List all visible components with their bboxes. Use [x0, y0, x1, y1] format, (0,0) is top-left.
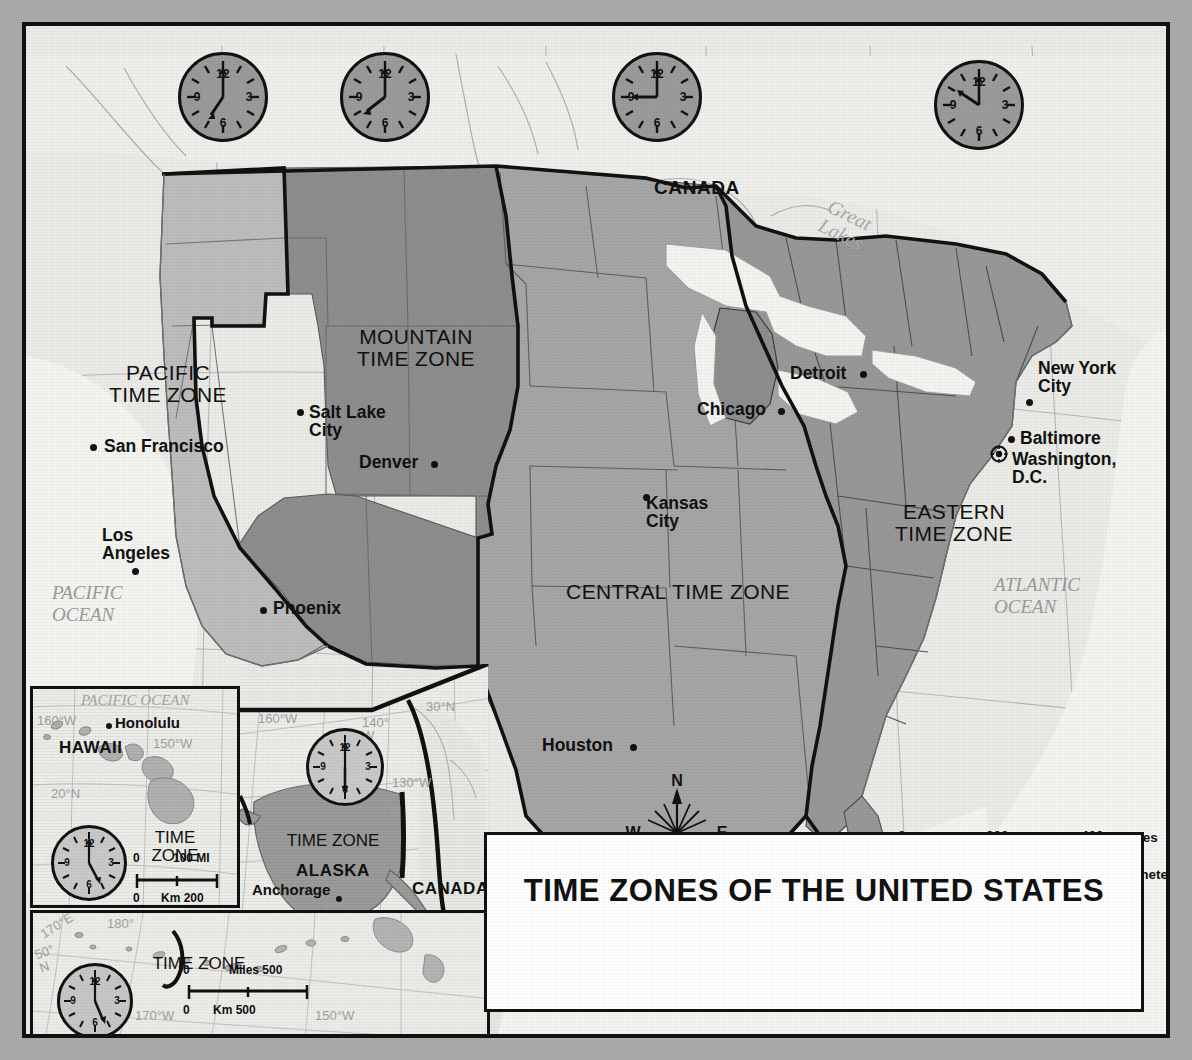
map-title-box: TIME ZONES OF THE UNITED STATES	[484, 832, 1144, 1012]
svg-text:6: 6	[654, 116, 661, 130]
city-label-kansas-city: Kansas City	[646, 494, 708, 531]
hawaii-scale-km-max: Km 200	[161, 891, 204, 905]
hawaii-lat-20n: 20°N	[51, 787, 80, 801]
svg-text:9: 9	[320, 761, 326, 772]
svg-text:9: 9	[70, 995, 76, 1006]
alaska-inset[interactable]: 160°W 140° W 130°W 70°N 60°N 30°N TIME Z…	[240, 664, 490, 914]
ocean-label-pacific: PACIFIC OCEAN	[52, 582, 122, 626]
zone-label-pacific: PACIFIC TIME ZONE	[88, 362, 248, 406]
city-dot-washington-dc	[989, 444, 1009, 468]
city-label-new-york-city: New York City	[1038, 359, 1116, 396]
alaska-lon-160w: 160°W	[258, 712, 297, 726]
city-label-honolulu: Honolulu	[115, 715, 180, 731]
city-label-anchorage: Anchorage	[252, 882, 330, 898]
svg-text:6: 6	[220, 116, 227, 130]
svg-text:6: 6	[92, 1017, 98, 1028]
svg-text:3: 3	[114, 995, 120, 1006]
zone-label-eastern: EASTERN TIME ZONE	[874, 501, 1034, 545]
svg-text:9: 9	[950, 98, 957, 112]
hawaii-scale-km-0: 0	[133, 891, 140, 905]
eastern-clock: 123 69	[934, 60, 1024, 150]
hawaii-scale-miles-0: 0	[133, 851, 140, 865]
city-label-phoenix: Phoenix	[273, 599, 341, 617]
alaska-name-label: ALASKA	[296, 862, 370, 880]
hawaii-lon-150w: 150°W	[153, 737, 192, 751]
hawaii-lon-160w: 160°W	[37, 714, 76, 728]
hawaii-clock: 123 69	[51, 825, 127, 901]
city-dot-new-york-city	[1026, 399, 1033, 406]
svg-text:3: 3	[408, 90, 415, 104]
city-dot-los-angeles	[132, 568, 139, 575]
hawaii-scale-miles-max: 100 MI	[173, 851, 210, 865]
zone-label-central: CENTRAL TIME ZONE	[538, 581, 818, 603]
city-dot-chicago	[778, 408, 785, 415]
country-label-canada-inset: CANADA	[412, 880, 489, 898]
svg-text:N: N	[671, 774, 683, 789]
mountain-clock: 123 69	[340, 52, 430, 142]
aleutian-scale-miles: Miles 500	[229, 963, 282, 977]
city-dot-phoenix	[260, 607, 267, 614]
aleutian-lon-180: 180°	[107, 917, 134, 931]
city-dot-anchorage	[336, 896, 342, 902]
city-dot-denver	[431, 461, 438, 468]
city-label-houston: Houston	[542, 736, 613, 754]
aleutian-clock: 123 69	[57, 963, 133, 1038]
ocean-label-atlantic: ATLANTIC OCEAN	[994, 574, 1080, 618]
svg-text:3: 3	[365, 761, 371, 772]
hawaii-inset[interactable]: PACIFIC OCEAN 160°W 150°W 20°N Honolulu …	[30, 686, 240, 908]
city-dot-salt-lake-city	[297, 409, 304, 416]
map-page: 123 69 123	[0, 0, 1192, 1060]
svg-text:3: 3	[108, 857, 114, 868]
city-label-washington-dc: Washington, D.C.	[1012, 450, 1116, 487]
alaska-clock: 123 69	[306, 728, 384, 806]
map-title: TIME ZONES OF THE UNITED STATES	[524, 873, 1105, 909]
aleutian-scale-miles-0: 0	[183, 963, 190, 977]
svg-text:9: 9	[356, 90, 363, 104]
city-dot-detroit	[860, 371, 867, 378]
svg-text:6: 6	[976, 124, 983, 138]
svg-text:3: 3	[246, 90, 253, 104]
svg-text:9: 9	[64, 857, 70, 868]
alaska-zone-label: TIME ZONE	[268, 832, 398, 850]
svg-text:3: 3	[680, 90, 687, 104]
city-label-salt-lake-city: Salt Lake City	[309, 403, 386, 440]
alaska-lat-30n: 30°N	[426, 700, 455, 714]
city-dot-san-francisco	[90, 444, 97, 451]
aleutian-lon-150w: 150°W	[315, 1009, 354, 1023]
city-dot-baltimore	[1008, 436, 1015, 443]
city-label-san-francisco: San Francisco	[104, 437, 224, 455]
svg-text:3: 3	[1002, 98, 1009, 112]
aleutian-scale-km-0: 0	[183, 1003, 190, 1017]
main-map[interactable]: 123 69 123	[22, 22, 1170, 1038]
aleutian-lon-170w: 170°W	[135, 1009, 174, 1023]
svg-text:9: 9	[194, 90, 201, 104]
alaska-lon-130w: 130°W	[392, 776, 431, 790]
country-label-canada: CANADA	[654, 178, 740, 198]
zone-label-mountain: MOUNTAIN TIME ZONE	[336, 326, 496, 370]
city-label-baltimore: Baltimore	[1020, 429, 1101, 447]
city-label-denver: Denver	[359, 453, 418, 471]
aleutian-inset[interactable]: 170°E 180° 50° N 170°W 150°W TIME ZONE	[30, 910, 490, 1038]
pacific-clock: 123 69	[178, 52, 268, 142]
city-dot-houston	[630, 744, 637, 751]
city-label-chicago: Chicago	[697, 400, 766, 418]
hawaii-name-label: HAWAII	[59, 739, 122, 757]
hawaii-ocean-label: PACIFIC OCEAN	[81, 693, 189, 709]
svg-text:6: 6	[382, 116, 389, 130]
aleutian-scale-km: Km 500	[213, 1003, 256, 1017]
svg-text:6: 6	[86, 879, 92, 890]
aleutian-scale-bar	[185, 979, 325, 1005]
city-label-detroit: Detroit	[790, 364, 846, 382]
city-label-los-angeles: Los Angeles	[102, 526, 170, 563]
city-dot-honolulu	[106, 723, 112, 729]
central-clock: 123 69	[612, 52, 702, 142]
alaska-lat-70n: 70°N	[372, 804, 401, 818]
